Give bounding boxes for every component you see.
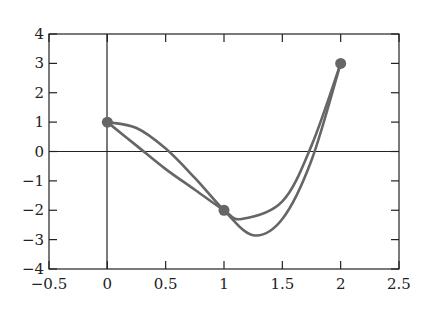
y-tick-label: −3 (22, 231, 44, 249)
data-point (219, 205, 230, 216)
data-points (102, 58, 346, 216)
x-tick-label: 2 (336, 275, 346, 293)
y-tick-label: 0 (34, 143, 44, 161)
y-tick-label: −1 (22, 172, 44, 190)
y-tick-label: −4 (22, 260, 44, 278)
data-point (335, 58, 346, 69)
y-tick-label: −2 (22, 201, 44, 219)
x-tick-label: 1 (219, 275, 229, 293)
tick-labels: −0.500.511.522.543210−1−2−3−4 (22, 25, 411, 293)
y-tick-label: 1 (34, 113, 44, 131)
x-tick-label: 0.5 (154, 275, 178, 293)
x-tick-label: 2.5 (387, 275, 411, 293)
y-tick-label: 2 (34, 84, 44, 102)
data-point (102, 117, 113, 128)
curve-2 (107, 63, 340, 219)
y-tick-label: 4 (34, 25, 44, 43)
x-tick-label: 0 (103, 275, 113, 293)
chart: −0.500.511.522.543210−1−2−3−4 (0, 0, 426, 310)
x-tick-label: 1.5 (270, 275, 294, 293)
y-tick-label: 3 (34, 54, 44, 72)
